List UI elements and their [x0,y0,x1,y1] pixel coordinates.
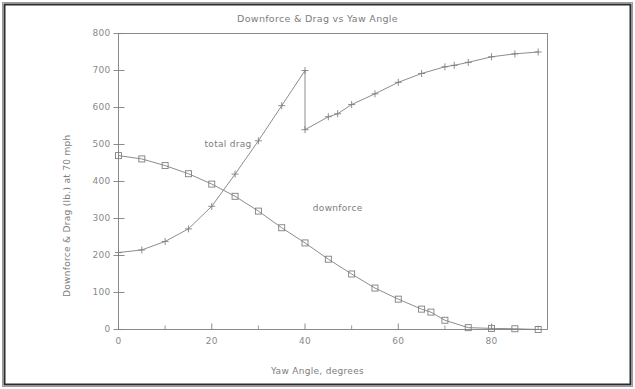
marker-plus [162,238,169,245]
marker-plus [278,102,285,109]
marker-plus [138,246,145,253]
y-axis-tick-label: 400 [71,176,111,186]
marker-plus [441,63,448,70]
y-axis-tick-label: 300 [71,213,111,223]
marker-plus [418,70,425,77]
chart-title: Downforce & Drag vs Yaw Angle [0,13,635,24]
marker-plus [334,110,341,117]
marker-plus [371,90,378,97]
y-axis-tick-label: 800 [71,28,111,38]
marker-plus [535,49,542,56]
x-axis-tick-label: 60 [386,336,410,346]
series-line-total-drag [119,52,539,253]
x-axis-tick-label: 80 [480,336,504,346]
y-axis-tick-label: 200 [71,250,111,260]
plot-frame [119,34,548,330]
y-axis-title: Downforce & Drag (lb.) at 70 mph [62,134,72,297]
marker-plus [465,59,472,66]
y-axis-tick-label: 0 [71,324,111,334]
x-axis-tick-label: 0 [107,336,131,346]
marker-plus [325,113,332,120]
marker-plus [302,126,309,133]
marker-plus [451,62,458,69]
x-axis-title: Yaw Angle, degrees [0,366,635,376]
y-axis-title-wrapper: Downforce & Drag (lb.) at 70 mph [62,134,72,297]
marker-plus [232,171,239,178]
marker-plus [348,101,355,108]
total-drag-label: total drag [176,139,280,149]
marker-plus [395,79,402,86]
x-axis-tick-label: 20 [200,336,224,346]
marker-plus [115,249,122,256]
downforce-label: downforce [286,203,390,213]
x-axis-tick-label: 40 [293,336,317,346]
y-axis-tick-label: 500 [71,139,111,149]
marker-plus [511,50,518,57]
chart-figure: Downforce & Drag vs Yaw Angle 0204060800… [0,0,635,389]
y-axis-tick-label: 700 [71,65,111,75]
marker-plus [488,53,495,60]
y-axis-tick-label: 600 [71,102,111,112]
series-line-downforce [119,156,539,330]
y-axis-tick-label: 100 [71,287,111,297]
marker-plus [302,67,309,74]
